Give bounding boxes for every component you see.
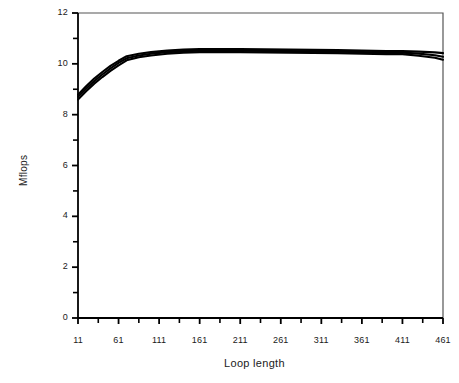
x-tick-label: 461 [423, 335, 459, 345]
x-tick-label: 11 [58, 335, 98, 345]
x-tick-label: 361 [342, 335, 382, 345]
chart-figure: 024681012 1161111161211261311361411461 M… [0, 0, 459, 383]
x-axis-title: Loop length [0, 357, 459, 369]
data-line [78, 51, 443, 97]
data-line [78, 52, 443, 99]
x-tick-label: 111 [139, 335, 179, 345]
x-tick-label: 61 [99, 335, 139, 345]
x-tick-label: 261 [261, 335, 301, 345]
y-axis-title: Mflops [18, 154, 29, 185]
chart-plot-area [0, 0, 459, 383]
x-tick-label: 311 [301, 335, 341, 345]
x-tick-label: 161 [180, 335, 220, 345]
y-tick-label: 2 [38, 261, 68, 271]
y-tick-label: 8 [38, 109, 68, 119]
data-series-group [78, 49, 443, 99]
x-tick-label: 211 [220, 335, 260, 345]
y-tick-label: 12 [38, 7, 68, 17]
y-tick-label: 0 [38, 312, 68, 322]
y-tick-label: 4 [38, 210, 68, 220]
y-tick-label: 10 [38, 58, 68, 68]
x-tick-label: 411 [382, 335, 422, 345]
y-tick-label: 6 [38, 160, 68, 170]
